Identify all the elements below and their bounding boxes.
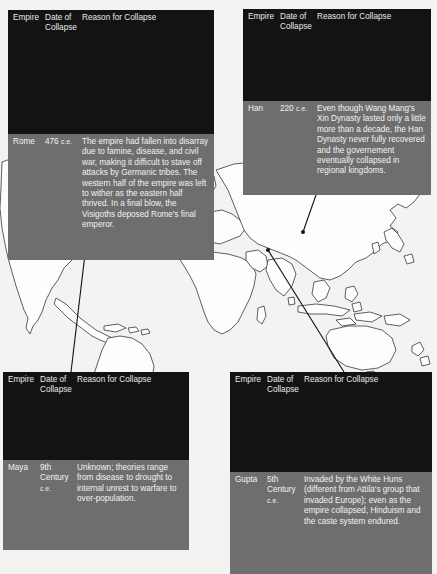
cell-empire: Gupta xyxy=(230,475,267,569)
column-header-reason: Reason for Collapse xyxy=(77,375,189,457)
table-header-row: Empire Date of Collapse Reason for Colla… xyxy=(8,10,214,134)
han-collapse-table: Empire Date of Collapse Reason for Colla… xyxy=(243,9,431,195)
cell-date: 5th Century c.e. xyxy=(267,475,304,569)
rome-collapse-table: Empire Date of Collapse Reason for Colla… xyxy=(8,10,214,260)
table-row: Han 220 c.e. Even though Wang Mang's Xin… xyxy=(243,101,431,195)
cell-date: 9th Century c.e. xyxy=(40,463,77,545)
cell-reason: Even though Wang Mang's Xin Dynasty last… xyxy=(317,104,431,190)
cell-reason: Unknown; theories range from disease to … xyxy=(77,463,189,545)
table-row: Maya 9th Century c.e. Unknown; theories … xyxy=(3,460,189,550)
table-header-row: Empire Date of Collapse Reason for Colla… xyxy=(230,372,432,472)
cell-date-era: c.e. xyxy=(267,497,278,504)
column-header-date: Date of Collapse xyxy=(267,375,304,469)
maya-collapse-table: Empire Date of Collapse Reason for Colla… xyxy=(3,372,189,550)
cell-empire: Rome xyxy=(8,137,45,255)
column-header-date-line2: Collapse xyxy=(45,23,77,32)
table-header-row: Empire Date of Collapse Reason for Colla… xyxy=(243,9,431,101)
cell-date-value: 9th Century xyxy=(40,463,69,482)
column-header-empire: Empire xyxy=(230,375,267,469)
column-header-date-line2: Collapse xyxy=(267,385,299,394)
column-header-empire: Empire xyxy=(243,12,280,98)
column-header-date-line2: Collapse xyxy=(280,22,312,31)
cell-date: 476 c.e. xyxy=(45,137,82,255)
gupta-collapse-table: Empire Date of Collapse Reason for Colla… xyxy=(230,372,432,574)
table-header-row: Empire Date of Collapse Reason for Colla… xyxy=(3,372,189,460)
column-header-date-line1: Date of xyxy=(40,375,66,384)
cell-date-era: c.e. xyxy=(61,138,72,145)
column-header-empire: Empire xyxy=(3,375,40,457)
cell-date-era: c.e. xyxy=(40,485,51,492)
cell-date-value: 220 xyxy=(280,104,294,113)
column-header-date-line1: Date of xyxy=(280,12,306,21)
table-row: Rome 476 c.e. The empire had fallen into… xyxy=(8,134,214,260)
cell-empire: Han xyxy=(243,104,280,190)
cell-date-value: 5th Century xyxy=(267,475,296,494)
column-header-reason: Reason for Collapse xyxy=(304,375,432,469)
cell-reason: The empire had fallen into disarray due … xyxy=(82,137,214,255)
table-row: Gupta 5th Century c.e. Invaded by the Wh… xyxy=(230,472,432,574)
column-header-reason: Reason for Collapse xyxy=(82,13,214,131)
column-header-empire: Empire xyxy=(8,13,45,131)
cell-date-value: 476 xyxy=(45,137,59,146)
column-header-date-line2: Collapse xyxy=(40,385,72,394)
column-header-reason: Reason for Collapse xyxy=(317,12,431,98)
column-header-date: Date of Collapse xyxy=(45,13,82,131)
column-header-date-line1: Date of xyxy=(45,13,71,22)
cell-empire: Maya xyxy=(3,463,40,545)
column-header-date: Date of Collapse xyxy=(40,375,77,457)
column-header-date-line1: Date of xyxy=(267,375,293,384)
cell-date: 220 c.e. xyxy=(280,104,317,190)
cell-date-era: c.e. xyxy=(296,105,307,112)
cell-reason: Invaded by the White Huns (different fro… xyxy=(304,475,432,569)
column-header-date: Date of Collapse xyxy=(280,12,317,98)
